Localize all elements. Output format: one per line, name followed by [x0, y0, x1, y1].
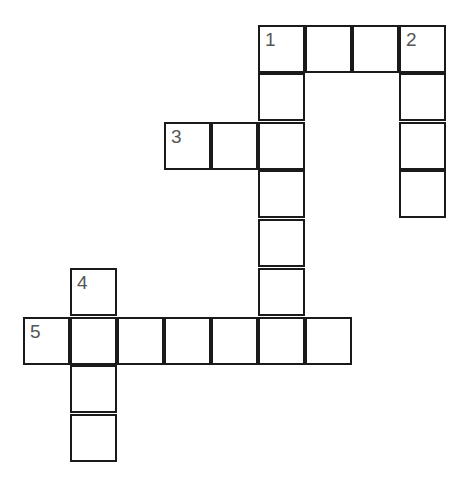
crossword-cell[interactable]: 4: [70, 268, 117, 316]
crossword-cell[interactable]: [211, 122, 258, 170]
crossword-cell[interactable]: 3: [164, 122, 211, 170]
crossword-cell[interactable]: 5: [23, 317, 70, 365]
crossword-cell[interactable]: [258, 170, 305, 218]
clue-number: 1: [265, 30, 276, 49]
crossword-cell[interactable]: [258, 268, 305, 316]
crossword-cell[interactable]: [70, 414, 117, 462]
crossword-cell[interactable]: [305, 317, 352, 365]
crossword-cell[interactable]: [258, 122, 305, 170]
crossword-cell[interactable]: [70, 317, 117, 365]
clue-number: 3: [171, 127, 182, 146]
clue-number: 5: [30, 322, 41, 341]
crossword-cell[interactable]: [305, 25, 352, 73]
crossword-cell[interactable]: [258, 73, 305, 121]
crossword-cell[interactable]: [164, 317, 211, 365]
crossword-cell[interactable]: [399, 122, 446, 170]
crossword-cell[interactable]: [117, 317, 164, 365]
crossword-cell[interactable]: [399, 170, 446, 218]
crossword-cell[interactable]: [211, 317, 258, 365]
crossword-cell[interactable]: [258, 317, 305, 365]
crossword-cell[interactable]: 2: [399, 25, 446, 73]
crossword-cell[interactable]: 1: [258, 25, 305, 73]
crossword-cell[interactable]: [352, 25, 399, 73]
crossword-cell[interactable]: [399, 73, 446, 121]
crossword-cell[interactable]: [70, 365, 117, 413]
crossword-cell[interactable]: [258, 219, 305, 267]
clue-number: 4: [77, 273, 88, 292]
clue-number: 2: [406, 30, 417, 49]
